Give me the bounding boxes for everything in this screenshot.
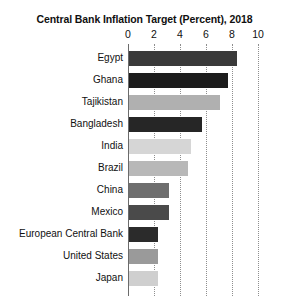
x-tick-label-10: 10 <box>252 28 264 40</box>
bar-row: China <box>0 180 289 202</box>
bar-row: Egypt <box>0 48 289 70</box>
x-tick-label-2: 2 <box>151 28 157 40</box>
x-tick-label-4: 4 <box>177 28 183 40</box>
bar-egypt <box>129 51 237 66</box>
bar-japan <box>129 271 158 286</box>
bar-row: Ghana <box>0 70 289 92</box>
bar-row: Tajikistan <box>0 92 289 114</box>
bar-united-states <box>129 249 158 264</box>
bar-category-label: Egypt <box>97 52 123 64</box>
bar-category-label: Mexico <box>91 206 123 218</box>
bar-tajikistan <box>129 95 220 110</box>
bar-category-label: China <box>97 184 123 196</box>
x-tick-label-6: 6 <box>203 28 209 40</box>
bar-mexico <box>129 205 169 220</box>
x-tick-label-0: 0 <box>125 28 131 40</box>
chart-title: Central Bank Inflation Target (Percent),… <box>0 13 289 25</box>
x-tick-label-8: 8 <box>229 28 235 40</box>
bar-row: Japan <box>0 268 289 290</box>
bar-china <box>129 183 169 198</box>
bar-row: United States <box>0 246 289 268</box>
bar-category-label: Bangladesh <box>70 118 123 130</box>
bar-row: India <box>0 136 289 158</box>
bar-category-label: European Central Bank <box>19 228 123 240</box>
bar-row: Bangladesh <box>0 114 289 136</box>
bar-category-label: Ghana <box>93 74 123 86</box>
bar-brazil <box>129 161 188 176</box>
bar-row: Brazil <box>0 158 289 180</box>
x-axis-tick-labels: 0246810 <box>0 28 289 44</box>
bar-category-label: India <box>101 140 123 152</box>
bar-row: European Central Bank <box>0 224 289 246</box>
bar-india <box>129 139 191 154</box>
bar-category-label: Tajikistan <box>82 96 123 108</box>
bar-european-central-bank <box>129 227 158 242</box>
bar-category-label: Japan <box>96 272 123 284</box>
bar-bangladesh <box>129 117 202 132</box>
bar-category-label: United States <box>63 250 123 262</box>
bar-category-label: Brazil <box>98 162 123 174</box>
bar-row: Mexico <box>0 202 289 224</box>
inflation-target-bar-chart: Central Bank Inflation Target (Percent),… <box>0 0 289 302</box>
bar-series: EgyptGhanaTajikistanBangladeshIndiaBrazi… <box>0 44 289 296</box>
bar-ghana <box>129 73 228 88</box>
plot-area: 0246810 EgyptGhanaTajikistanBangladeshIn… <box>0 28 289 296</box>
